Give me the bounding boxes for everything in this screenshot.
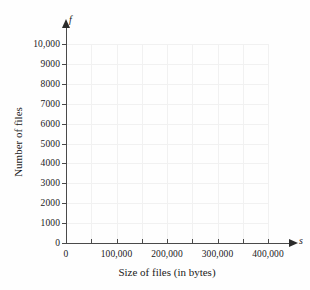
gridline-vertical bbox=[268, 44, 269, 243]
chart-figure: f s 010002000300040005000600070008000900… bbox=[0, 0, 310, 290]
y-axis-tick-label: 3000 bbox=[2, 178, 60, 188]
y-axis-tick-label: 0 bbox=[2, 238, 60, 248]
x-axis-tick bbox=[117, 239, 118, 244]
x-axis-line bbox=[66, 243, 290, 244]
y-axis-tick bbox=[62, 124, 67, 125]
y-axis-tick-label: 4000 bbox=[2, 158, 60, 168]
x-axis-tick bbox=[91, 239, 92, 244]
y-axis-tick bbox=[62, 223, 67, 224]
x-axis-tick bbox=[218, 239, 219, 244]
y-axis-tick bbox=[62, 144, 67, 145]
gridline-vertical bbox=[117, 44, 118, 243]
y-axis-tick-label: 8000 bbox=[2, 79, 60, 89]
x-axis-variable-label: s bbox=[299, 235, 303, 246]
y-axis-tick-label: 2000 bbox=[2, 198, 60, 208]
x-axis-tick bbox=[192, 239, 193, 244]
x-axis-tick bbox=[142, 239, 143, 244]
x-axis-tick bbox=[268, 239, 269, 244]
x-axis-tick bbox=[66, 239, 67, 244]
gridline-vertical bbox=[142, 44, 143, 243]
y-axis-tick-label: 6000 bbox=[2, 119, 60, 129]
y-axis-tick bbox=[62, 183, 67, 184]
gridline-vertical bbox=[218, 44, 219, 243]
x-axis-tick bbox=[167, 239, 168, 244]
plot-area bbox=[66, 44, 268, 243]
gridline-vertical bbox=[243, 44, 244, 243]
y-axis-line bbox=[66, 26, 67, 244]
y-axis-tick bbox=[62, 104, 67, 105]
x-axis-tick bbox=[243, 239, 244, 244]
x-axis-arrow-icon bbox=[289, 239, 298, 247]
x-axis-tick-label: 400,000 bbox=[233, 249, 303, 259]
y-axis-tick bbox=[62, 44, 67, 45]
gridline-vertical bbox=[192, 44, 193, 243]
y-axis-tick bbox=[62, 84, 67, 85]
y-axis-tick-label: 10,000 bbox=[2, 39, 60, 49]
y-axis-tick bbox=[62, 64, 67, 65]
y-axis-variable-label: f bbox=[69, 14, 72, 25]
gridline-vertical bbox=[91, 44, 92, 243]
gridline-vertical bbox=[167, 44, 168, 243]
y-axis-tick-label: 9000 bbox=[2, 59, 60, 69]
y-axis-title: Number of files bbox=[12, 87, 24, 197]
y-axis-tick-label: 5000 bbox=[2, 139, 60, 149]
y-axis-tick bbox=[62, 163, 67, 164]
y-axis-tick bbox=[62, 203, 67, 204]
y-axis-tick-label: 7000 bbox=[2, 99, 60, 109]
x-axis-title: Size of files (in bytes) bbox=[66, 266, 268, 278]
y-axis-tick-label: 1000 bbox=[2, 218, 60, 228]
